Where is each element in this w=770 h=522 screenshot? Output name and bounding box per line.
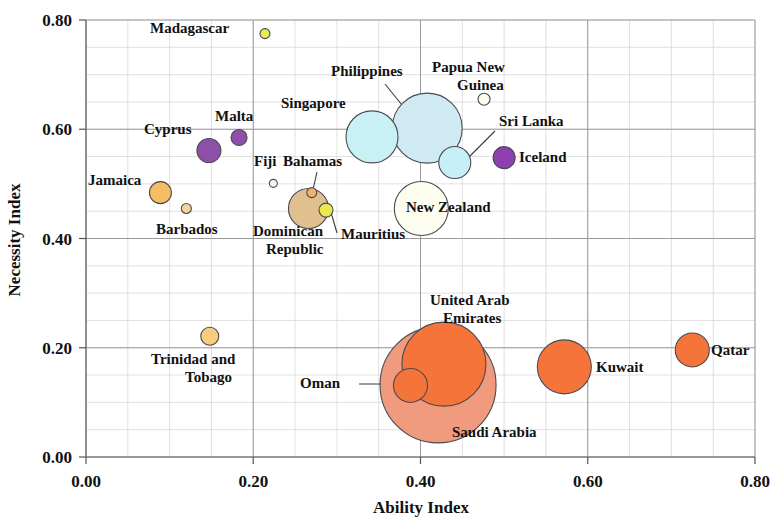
point-label-united-arab-emirates-line2: Emirates: [443, 310, 501, 326]
x-axis-tick-label: 0.80: [740, 472, 770, 491]
point-label-kuwait: Kuwait: [596, 359, 644, 375]
bubble-iceland: [493, 147, 515, 169]
bubble-oman: [393, 368, 427, 402]
chart-canvas: 0.000.200.400.600.800.000.200.400.600.80…: [0, 0, 770, 522]
bubble-papua-new-guinea: [478, 93, 490, 105]
bubble-malta: [231, 129, 247, 145]
point-label-madagascar: Madagascar: [150, 20, 229, 36]
point-label-cyprus: Cyprus: [144, 121, 192, 137]
bubble-cyprus: [197, 139, 221, 163]
bubble-trinidad-and-tobago: [201, 327, 219, 345]
point-label-jamaica: Jamaica: [88, 172, 142, 188]
point-label-mauritius: Mauritius: [341, 226, 405, 242]
bubble-qatar: [675, 333, 709, 367]
point-label-trinidad-and-tobago-line2: Tobago: [185, 369, 232, 385]
y-axis-tick-label: 0.20: [42, 339, 72, 358]
bubble-kuwait: [537, 340, 591, 394]
point-label-fiji: Fiji: [254, 153, 277, 169]
bubble-barbados: [181, 203, 191, 213]
point-label-sri-lanka: Sri Lanka: [499, 113, 564, 129]
bubble-mauritius: [319, 203, 333, 217]
y-axis-tick-label: 0.40: [42, 230, 72, 249]
x-axis-tick-label: 0.00: [71, 472, 101, 491]
point-label-dominican-republic: Dominican: [253, 223, 324, 239]
bubble-bahamas: [307, 188, 317, 198]
point-label-oman: Oman: [300, 375, 341, 391]
point-label-singapore: Singapore: [281, 95, 346, 111]
point-label-new-zealand: New Zealand: [406, 199, 491, 215]
bubble-sri-lanka: [439, 147, 471, 179]
y-axis-tick-label: 0.00: [42, 448, 72, 467]
point-label-qatar: Qatar: [711, 342, 750, 358]
point-label-united-arab-emirates: United Arab: [430, 292, 510, 308]
point-label-papua-new-guinea-line2: Guinea: [457, 77, 504, 93]
point-label-saudi-arabia: Saudi Arabia: [452, 424, 537, 440]
point-label-iceland: Iceland: [519, 149, 567, 165]
bubble-jamaica: [149, 182, 171, 204]
x-axis-tick-label: 0.20: [238, 472, 268, 491]
point-label-dominican-republic-line2: Republic: [266, 241, 324, 257]
bubble-madagascar: [260, 29, 270, 39]
point-label-trinidad-and-tobago: Trinidad and: [151, 351, 236, 367]
point-label-papua-new-guinea: Papua New: [432, 59, 505, 75]
point-label-philippines: Philippines: [331, 63, 403, 79]
bubble-chart: 0.000.200.400.600.800.000.200.400.600.80…: [0, 0, 770, 522]
point-label-malta: Malta: [215, 108, 254, 124]
bubble-fiji: [269, 179, 277, 187]
bubble-singapore: [346, 111, 398, 163]
y-axis-tick-label: 0.80: [42, 11, 72, 30]
point-label-barbados: Barbados: [156, 221, 218, 237]
y-axis-tick-label: 0.60: [42, 120, 72, 139]
x-axis-tick-label: 0.40: [406, 472, 436, 491]
point-label-bahamas: Bahamas: [283, 153, 342, 169]
data-bubbles: [149, 29, 709, 443]
x-axis-title: Ability Index: [373, 498, 469, 517]
x-axis-tick-label: 0.60: [573, 472, 603, 491]
y-axis-title: Necessity Index: [5, 183, 24, 296]
